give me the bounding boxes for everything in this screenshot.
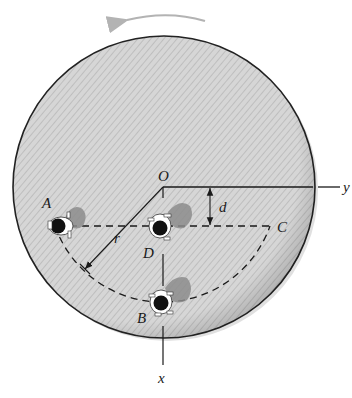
- point-c-label: C: [277, 219, 288, 235]
- y-axis-label: y: [341, 179, 350, 195]
- x-axis-label: x: [157, 370, 165, 386]
- point-a-label: A: [41, 195, 52, 211]
- d-label: d: [219, 199, 227, 215]
- point-d-label: D: [142, 245, 154, 261]
- origin-label: O: [158, 168, 169, 184]
- point-b-label: B: [137, 310, 146, 326]
- diagram: y x O d r A B C D: [0, 0, 352, 398]
- r-label: r: [114, 230, 120, 246]
- rotation-arrow-icon: [127, 15, 205, 21]
